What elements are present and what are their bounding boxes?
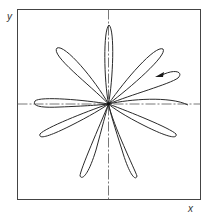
- origin-point: [107, 102, 110, 105]
- direction-arrow-icon: [155, 72, 164, 77]
- y-axis-label: y: [7, 11, 12, 22]
- x-axis-label: x: [188, 203, 193, 214]
- rose-curve: [34, 25, 188, 178]
- rose-diagram: [0, 0, 209, 219]
